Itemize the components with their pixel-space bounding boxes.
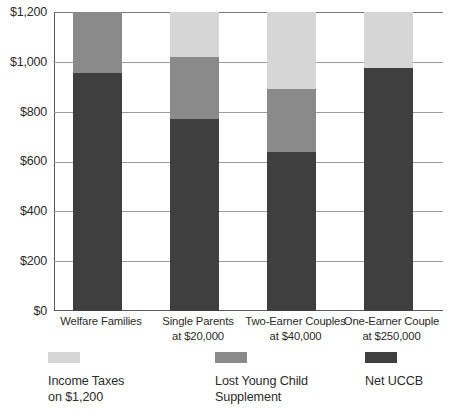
legend-swatch-net-uccb (365, 352, 397, 363)
y-axis-tick-label: $400 (0, 205, 47, 217)
y-axis-tick-label: $1,200 (0, 6, 47, 18)
legend-swatch-income-taxes (48, 352, 80, 363)
legend-swatch-lost-young-child-supplement (215, 352, 247, 363)
y-axis-tick-label: $200 (0, 255, 47, 267)
bar-welfare-families (73, 12, 122, 311)
x-axis-labels: Welfare Families Single Parents at $20,0… (54, 314, 443, 354)
y-axis-tick-label: $600 (0, 155, 47, 167)
bar-segment-net-uccb (364, 68, 413, 311)
x-axis-label-one-earner-couple: One-Earner Couple at $250,000 (329, 314, 453, 343)
bar-single-parents (170, 12, 219, 311)
x-axis-label-line2: at $250,000 (329, 329, 453, 344)
legend-item-net-uccb: Net UCCB (365, 352, 423, 390)
legend-label-line1: Net UCCB (365, 374, 423, 388)
y-axis-tick-label: $800 (0, 106, 47, 118)
bar-one-earner-couple (364, 12, 413, 311)
y-axis-tick-label: $0 (0, 305, 47, 317)
legend-label-income-taxes: Income Taxes on $1,200 (48, 374, 124, 405)
bar-segment-lost-young-child-supplement (73, 12, 122, 73)
legend-label-line1: Lost Young Child (215, 374, 308, 388)
bar-segment-net-uccb (170, 119, 219, 311)
x-axis-label-line1: Welfare Families (60, 315, 142, 327)
bar-segment-lost-young-child-supplement (170, 57, 219, 119)
plot-area (54, 12, 443, 311)
bar-segment-lost-young-child-supplement (267, 89, 316, 151)
x-axis-label-line1: Single Parents (162, 315, 233, 327)
legend-item-income-taxes: Income Taxes on $1,200 (48, 352, 124, 405)
legend-label-line1: Income Taxes (48, 374, 124, 388)
y-axis-tick-label: $1,000 (0, 56, 47, 68)
legend-item-lost-young-child-supplement: Lost Young Child Supplement (215, 352, 308, 405)
bar-segment-net-uccb (73, 73, 122, 311)
bar-segment-income-taxes (170, 12, 219, 57)
legend-label-line2: Supplement (215, 390, 308, 406)
bar-segment-net-uccb (267, 152, 316, 312)
legend-label-line2: on $1,200 (48, 390, 124, 406)
bar-segment-income-taxes (364, 12, 413, 68)
legend-label-net-uccb: Net UCCB (365, 374, 423, 388)
bar-segment-income-taxes (267, 12, 316, 89)
bar-two-earner-couples (267, 12, 316, 311)
x-axis-label-line1: One-Earner Couple (344, 315, 439, 327)
stacked-bar-chart: $1,200 $1,000 $800 $600 $400 $200 $0 (0, 0, 453, 411)
chart-legend: Income Taxes on $1,200 Lost Young Child … (0, 352, 453, 411)
legend-label-lost-young-child-supplement: Lost Young Child Supplement (215, 374, 308, 405)
